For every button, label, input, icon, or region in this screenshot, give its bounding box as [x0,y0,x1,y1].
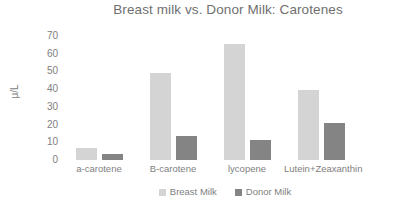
bar-group [284,36,358,160]
y-tick-label: 60 [30,49,58,59]
x-axis-labels: a-caroteneB-carotenelycopeneLutein+Zeaxa… [62,163,358,177]
legend-swatch-icon [159,189,166,196]
x-axis-category-label: B-carotene [136,163,210,175]
bar-group [136,36,210,160]
carotenes-bar-chart: Breast milk vs. Donor Milk: Carotenes μ/… [0,0,410,208]
legend-label: Breast Milk [170,187,217,197]
y-tick-label: 50 [30,66,58,76]
bar-breast-milk[interactable] [150,73,171,160]
y-tick-label: 30 [30,102,58,112]
y-tick-label: 40 [30,84,58,94]
bar-group [210,36,284,160]
bar-donor-milk[interactable] [176,136,197,160]
x-axis-category-label: lycopene [210,163,284,175]
plot-area [62,36,358,160]
y-axis-ticks: 706050403020100 [30,36,58,160]
legend-item[interactable]: Donor Milk [235,187,291,197]
bar-breast-milk[interactable] [298,90,319,160]
bar-breast-milk[interactable] [76,148,97,160]
y-tick-label: 10 [30,137,58,147]
legend-label: Donor Milk [246,187,291,197]
y-tick-label: 0 [30,155,58,165]
legend-swatch-icon [235,189,242,196]
x-axis-category-label: a-carotene [62,163,136,175]
x-axis-category-label: Lutein+Zeaxanthin [284,163,358,175]
bar-group [62,36,136,160]
bar-donor-milk[interactable] [102,154,123,160]
y-axis-label: μ/L [9,72,20,112]
bar-donor-milk[interactable] [324,123,345,160]
legend-item[interactable]: Breast Milk [159,187,217,197]
chart-title: Breast milk vs. Donor Milk: Carotenes [0,2,410,17]
chart-legend: Breast MilkDonor Milk [0,187,410,197]
bar-breast-milk[interactable] [224,44,245,160]
y-tick-label: 70 [30,31,58,41]
bar-donor-milk[interactable] [250,140,271,160]
y-tick-label: 20 [30,120,58,130]
